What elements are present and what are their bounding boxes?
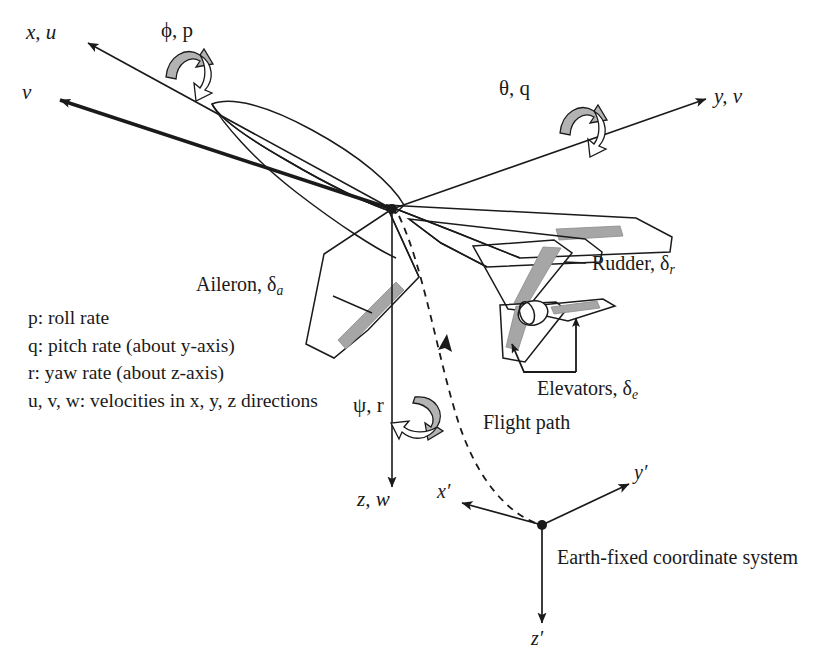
figure-canvas: x, u v y, v z, w ϕ, p θ, q ψ, r Aileron,… bbox=[0, 0, 839, 664]
flight-path-curve bbox=[399, 216, 538, 524]
near-wing-aileron bbox=[338, 282, 404, 349]
legend-line-pitch-rate: q: pitch rate (about y-axis) bbox=[28, 332, 318, 360]
legend-line-roll-rate: p: roll rate bbox=[28, 304, 318, 332]
aileron-symbol: δ bbox=[267, 273, 276, 295]
legend-line-yaw-rate: r: yaw rate (about z-axis) bbox=[28, 359, 318, 387]
yaw-rotation-arrow bbox=[391, 397, 443, 440]
rudder-comma: , bbox=[650, 252, 660, 274]
rudder-label: Rudder, δr bbox=[592, 253, 675, 276]
rudder-leader-line bbox=[564, 262, 586, 263]
aileron-comma: , bbox=[257, 273, 267, 295]
earth-origin-point bbox=[537, 520, 547, 530]
body-y-axis bbox=[392, 99, 706, 209]
pitch-rotation-label: θ, q bbox=[499, 78, 530, 99]
earth-frame-caption: Earth-fixed coordinate system bbox=[557, 547, 798, 567]
elevators-comma: , bbox=[613, 377, 623, 399]
flight-path-label: Flight path bbox=[483, 412, 570, 432]
roll-rotation-arrow bbox=[166, 49, 213, 101]
legend-line-velocities: u, v, w: velocities in x, y, z direction… bbox=[28, 387, 318, 415]
rudder-label-text: Rudder bbox=[592, 252, 650, 274]
body-x-axis-label: x, u bbox=[26, 22, 56, 43]
velocity-vector-label: v bbox=[22, 82, 31, 103]
flight-path-direction-arrow bbox=[438, 334, 452, 352]
far-wing bbox=[386, 205, 672, 258]
velocity-vector bbox=[60, 100, 392, 209]
aileron-label-text: Aileron bbox=[196, 273, 257, 295]
body-origin-point bbox=[387, 204, 397, 214]
elevators-subscript: e bbox=[632, 387, 638, 402]
rudder-subscript: r bbox=[670, 262, 675, 277]
earth-x-axis-label: x′ bbox=[437, 481, 450, 501]
pitch-rotation-arrow bbox=[560, 105, 607, 157]
earth-z-axis-label: z′ bbox=[531, 628, 543, 648]
aileron-subscript: a bbox=[277, 283, 284, 298]
near-wing bbox=[306, 211, 419, 358]
yaw-rotation-label: ψ, r bbox=[353, 395, 384, 416]
body-z-axis-label: z, w bbox=[357, 489, 390, 510]
elevators-label: Elevators, δe bbox=[537, 378, 638, 401]
earth-y-axis-label: y′ bbox=[634, 462, 647, 482]
legend-block: p: roll rate q: pitch rate (about y-axis… bbox=[28, 304, 318, 415]
elevators-symbol: δ bbox=[623, 377, 632, 399]
aileron-label: Aileron, δa bbox=[196, 274, 283, 297]
far-wing-aileron bbox=[556, 226, 623, 240]
aileron-leader-line bbox=[333, 296, 372, 313]
roll-rotation-label: ϕ, p bbox=[161, 20, 193, 41]
body-y-axis-label: y, v bbox=[714, 86, 742, 107]
elevators-label-text: Elevators bbox=[537, 377, 613, 399]
rudder-symbol: δ bbox=[660, 252, 669, 274]
